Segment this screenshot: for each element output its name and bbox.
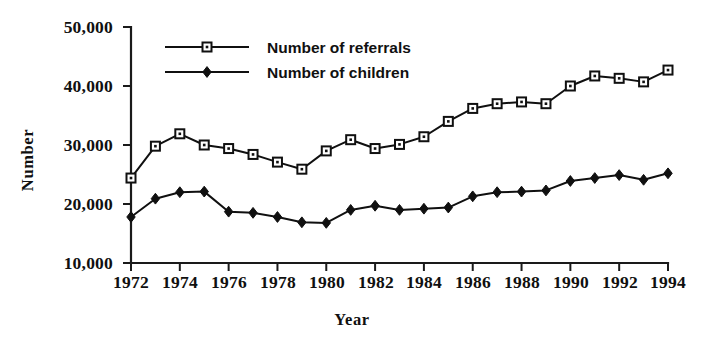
series-polyline (131, 70, 668, 178)
series-children (127, 168, 672, 228)
data-point-marker-filled-diamond (591, 173, 599, 184)
chart-figure: Number Year 50,000 40,000 30,000 20,000 … (0, 0, 702, 345)
data-point-marker-filled-diamond (346, 205, 354, 216)
x-tick-label: 1994 (650, 272, 686, 292)
data-point-marker-filled-diamond (542, 185, 550, 196)
y-tick-label: 10,000 (64, 253, 113, 273)
x-tick-label: 1978 (260, 272, 296, 292)
y-tick-label: 30,000 (64, 135, 113, 155)
x-axis-title: Year (334, 310, 369, 329)
chart-series (127, 66, 673, 229)
x-tick-label: 1972 (113, 272, 149, 292)
data-point-marker-filled-diamond (517, 186, 525, 197)
x-tick-label: 1986 (455, 272, 491, 292)
data-point-marker-filled-diamond (224, 206, 232, 217)
data-point-marker-filled-diamond (176, 187, 184, 198)
data-point-marker-center-dot (374, 147, 377, 150)
data-point-marker-center-dot (349, 138, 352, 141)
data-point-marker-filled-diamond (371, 200, 379, 211)
x-tick-label: 1976 (211, 272, 247, 292)
data-point-marker-filled-diamond (444, 202, 452, 213)
data-point-marker-center-dot (471, 107, 474, 110)
legend-sample-marker-filled-diamond (203, 67, 211, 78)
y-tick-label: 50,000 (64, 17, 113, 37)
data-point-marker-filled-diamond (639, 174, 647, 185)
data-point-marker-filled-diamond (151, 193, 159, 204)
data-point-marker-center-dot (325, 150, 328, 153)
data-point-marker-filled-diamond (395, 205, 403, 216)
data-point-marker-center-dot (520, 101, 523, 104)
legend-label: Number of children (267, 64, 409, 81)
data-point-marker-center-dot (667, 69, 670, 72)
legend-label: Number of referrals (267, 39, 411, 56)
data-point-marker-center-dot (227, 147, 230, 150)
data-point-marker-center-dot (398, 143, 401, 146)
y-tick-label: 40,000 (64, 76, 113, 96)
data-point-marker-filled-diamond (664, 168, 672, 179)
data-point-marker-center-dot (423, 135, 426, 138)
x-tick-label: 1984 (406, 272, 442, 292)
data-point-marker-center-dot (179, 132, 182, 135)
data-point-marker-filled-diamond (298, 217, 306, 228)
x-tick-label: 1974 (162, 272, 198, 292)
data-point-marker-filled-diamond (493, 187, 501, 198)
legend-item-referrals: Number of referrals (165, 39, 411, 56)
data-point-marker-filled-diamond (249, 207, 257, 218)
data-point-marker-center-dot (276, 161, 279, 164)
line-chart-canvas: Number Year 50,000 40,000 30,000 20,000 … (0, 0, 702, 345)
data-point-marker-center-dot (642, 81, 645, 84)
data-point-marker-center-dot (130, 177, 133, 180)
x-tick-label: 1988 (504, 272, 540, 292)
legend-item-children: Number of children (165, 64, 409, 81)
y-axis-title: Number (18, 129, 37, 191)
x-tick-label: 1980 (309, 272, 345, 292)
y-tick-labels: 50,000 40,000 30,000 20,000 10,000 (64, 17, 113, 273)
data-point-marker-center-dot (447, 120, 450, 123)
data-point-marker-center-dot (593, 75, 596, 78)
chart-legend: Number of referralsNumber of children (165, 39, 411, 81)
legend-sample-marker-center-dot (206, 46, 209, 49)
data-point-marker-filled-diamond (127, 212, 135, 223)
data-point-marker-center-dot (545, 102, 548, 105)
data-point-marker-center-dot (252, 153, 255, 156)
data-point-marker-center-dot (203, 144, 206, 147)
data-point-marker-center-dot (496, 102, 499, 105)
data-point-marker-filled-diamond (420, 203, 428, 214)
data-point-marker-filled-diamond (322, 217, 330, 228)
x-tick-label: 1982 (358, 272, 394, 292)
x-tick-label: 1990 (553, 272, 589, 292)
data-point-marker-center-dot (618, 77, 621, 80)
data-point-marker-filled-diamond (273, 212, 281, 223)
x-tick-labels: 1972 1974 1976 1978 1980 1982 1984 1986 … (113, 272, 686, 292)
data-point-marker-center-dot (154, 145, 157, 148)
data-point-marker-filled-diamond (566, 176, 574, 187)
data-point-marker-center-dot (301, 168, 304, 171)
data-point-marker-filled-diamond (469, 191, 477, 202)
series-referrals (127, 66, 673, 183)
y-tick-label: 20,000 (64, 194, 113, 214)
data-point-marker-filled-diamond (200, 186, 208, 197)
data-point-marker-filled-diamond (615, 170, 623, 181)
x-tick-label: 1992 (602, 272, 638, 292)
data-point-marker-center-dot (569, 85, 572, 88)
